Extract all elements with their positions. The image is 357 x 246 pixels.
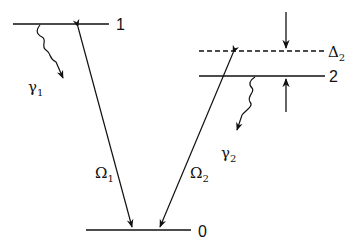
gamma-2-label: γ2 — [221, 144, 236, 164]
omega-2-arrow — [160, 53, 233, 227]
gamma-2-decay-arrow — [237, 77, 255, 130]
gamma-1-decay-arrow — [37, 25, 63, 78]
omega-1-label: Ω1 — [95, 164, 114, 184]
omega-1-arrow — [78, 27, 132, 227]
diagram-canvas: 1 Δ2 2 0 Ω1 Ω2 γ1 γ2 — [0, 0, 357, 246]
level-1-label: 1 — [116, 16, 125, 33]
omega-2-label: Ω2 — [190, 164, 209, 184]
level-2-label: 2 — [329, 68, 338, 85]
level-0-label: 0 — [198, 223, 207, 240]
delta-2-label: Δ2 — [328, 43, 345, 63]
lambda-level-diagram: 1 Δ2 2 0 Ω1 Ω2 γ1 γ2 — [0, 0, 357, 246]
gamma-1-label: γ1 — [28, 78, 43, 98]
